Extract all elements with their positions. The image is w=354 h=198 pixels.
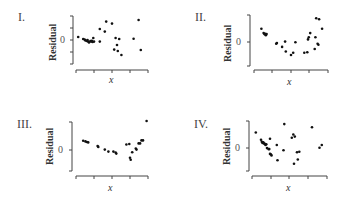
data-point (276, 144, 279, 147)
data-point (292, 133, 295, 136)
data-point (321, 144, 324, 147)
panel-i: I. Residual 0 x (0, 0, 177, 99)
data-point (118, 38, 121, 41)
data-point (321, 28, 324, 31)
data-point (294, 41, 297, 44)
y-axis-label: Residual (222, 25, 233, 62)
scatter-plot-iv (177, 99, 354, 198)
data-point (99, 28, 102, 31)
data-point (137, 19, 140, 22)
data-point (281, 46, 284, 49)
data-point (135, 148, 138, 151)
data-point (298, 151, 301, 154)
data-point (104, 148, 107, 151)
y-tick-zero: 0 (60, 34, 65, 45)
data-point (311, 126, 314, 129)
data-point (308, 36, 311, 39)
panel-ii: II. Residual 0 x (177, 0, 354, 99)
data-point (125, 143, 128, 146)
data-point (142, 139, 145, 142)
data-point (313, 48, 316, 51)
data-point (117, 50, 120, 53)
data-point (297, 158, 300, 161)
data-point (265, 33, 268, 36)
data-point (120, 54, 123, 57)
data-point (97, 146, 100, 149)
scatter-plot-i (0, 0, 177, 99)
x-axis-label: x (287, 76, 291, 87)
y-tick-zero: 0 (236, 36, 241, 47)
data-point (107, 150, 110, 153)
panel-label: IV. (194, 117, 208, 132)
data-point (116, 44, 119, 47)
data-point (294, 135, 297, 138)
data-point (114, 37, 117, 40)
data-point (309, 32, 312, 35)
scatter-plot-iii (0, 99, 177, 198)
data-point (306, 51, 309, 54)
data-point (318, 146, 321, 149)
data-point (111, 22, 114, 25)
y-axis-label: Residual (221, 128, 232, 165)
y-tick-zero: 0 (235, 142, 240, 153)
panel-label: I. (18, 10, 25, 25)
panel-iv: IV. Residual 0 x (177, 99, 354, 198)
data-point (284, 40, 287, 43)
data-point (283, 123, 286, 126)
data-point (92, 37, 95, 40)
data-point (293, 162, 296, 165)
data-point (303, 52, 306, 55)
data-point (276, 42, 279, 45)
data-point (77, 36, 80, 39)
data-point (282, 149, 285, 152)
data-point (129, 159, 132, 162)
data-point (292, 52, 295, 55)
data-point (105, 20, 108, 23)
data-point (82, 140, 85, 143)
data-point (314, 36, 317, 39)
x-axis-label: x (286, 182, 290, 193)
data-point (145, 120, 148, 123)
data-point (276, 159, 279, 162)
data-point (104, 30, 107, 33)
y-tick-zero: 0 (58, 144, 63, 155)
data-point (87, 141, 90, 144)
data-point (318, 18, 321, 21)
panel-iii: III. Residual 0 x (0, 99, 177, 198)
data-point (131, 151, 134, 154)
x-axis-label: x (108, 182, 112, 193)
data-point (291, 136, 294, 139)
data-point (260, 28, 263, 31)
data-point (132, 38, 135, 41)
data-point (296, 151, 299, 154)
data-point (269, 137, 272, 140)
data-point (285, 50, 288, 53)
y-axis-label: Residual (44, 128, 55, 165)
x-axis-label: x (109, 74, 113, 85)
data-point (317, 44, 320, 47)
data-point (268, 148, 271, 151)
y-axis-label: Residual (47, 24, 58, 61)
data-point (115, 152, 118, 155)
panel-label: III. (17, 117, 32, 132)
data-point (139, 142, 142, 145)
data-point (99, 40, 102, 43)
data-point (140, 49, 143, 52)
data-point (265, 143, 268, 146)
panel-label: II. (195, 10, 206, 25)
data-point (270, 154, 273, 157)
data-point (128, 143, 131, 146)
data-point (93, 40, 96, 43)
data-point (290, 54, 293, 57)
data-point (255, 131, 258, 134)
data-point (315, 17, 318, 20)
data-point (113, 48, 116, 51)
